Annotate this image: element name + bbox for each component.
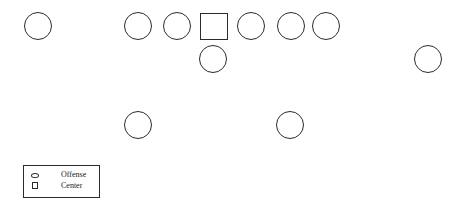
offense-player-circle [124,12,152,40]
offense-player-circle [163,12,191,40]
offense-player-circle [414,45,442,73]
square-icon [32,182,38,189]
legend-label-center: Center [61,181,82,190]
legend-item-center: Center [24,182,99,192]
offense-player-circle [237,12,265,40]
oval-icon [31,173,39,178]
offense-player-circle [24,12,52,40]
offense-player-circle [276,111,304,139]
offense-player-circle [124,111,152,139]
center-player-square [200,13,228,40]
offense-player-circle [312,12,340,40]
offense-player-circle [277,12,305,40]
legend-label-offense: Offense [61,170,86,179]
legend: Offense Center [23,165,100,198]
offense-player-circle [199,45,227,73]
legend-item-offense: Offense [24,171,99,181]
